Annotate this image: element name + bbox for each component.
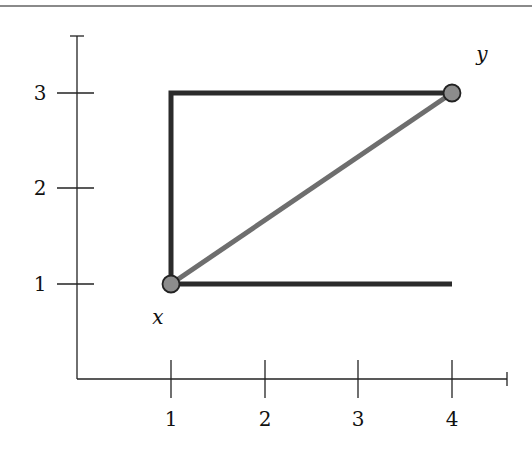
y-tick-label-3: 3 (34, 81, 47, 105)
point-x-label: x (152, 305, 163, 329)
y-tick-label-1: 1 (34, 272, 47, 296)
x-tick-label-3: 3 (352, 407, 365, 431)
x-tick-label-4: 4 (446, 407, 459, 431)
point-y-label: y (475, 42, 488, 66)
diagonal-segment (171, 93, 452, 284)
axes (57, 36, 507, 398)
y-tick-label-2: 2 (34, 176, 47, 200)
x-tick-label-1: 1 (165, 407, 178, 431)
x-tick-label-2: 2 (259, 407, 272, 431)
point-x (163, 276, 180, 293)
diagram-canvas: 3 2 1 1 2 3 4 x y (0, 0, 532, 449)
point-y (444, 85, 461, 102)
